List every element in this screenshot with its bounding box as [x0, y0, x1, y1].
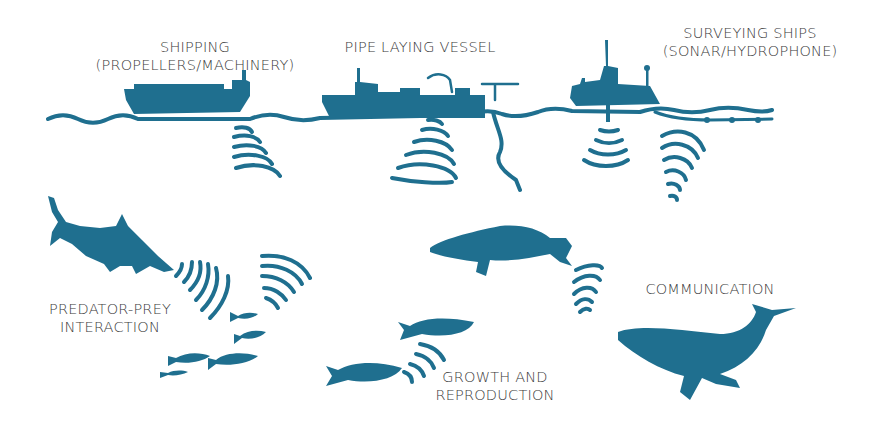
sound-waves-shark-icon	[176, 262, 228, 318]
underwater-noise-diagram: SHIPPING (PROPELLERS/MACHINERY) PIPE LAY…	[0, 0, 884, 443]
sound-waves-sonar-icon	[584, 130, 628, 166]
label-line: INTERACTION	[40, 318, 180, 336]
label-line: (PROPELLERS/MACHINERY)	[80, 56, 310, 74]
label-line: SHIPPING	[80, 38, 310, 56]
label-growth-reproduction: GROWTH AND REPRODUCTION	[425, 368, 565, 404]
hydrophone-node-icon	[729, 117, 735, 123]
label-line: (SONAR/HYDROPHONE)	[640, 42, 860, 60]
label-line: PREDATOR-PREY	[40, 300, 180, 318]
humpback-whale-icon	[618, 304, 796, 400]
label-line: PIPE LAYING VESSEL	[330, 38, 510, 56]
label-line: REPRODUCTION	[425, 386, 565, 404]
label-line: SURVEYING SHIPS	[640, 24, 860, 42]
humpback-whale-icon	[430, 226, 572, 277]
sound-waves-hydrophone-icon	[662, 132, 704, 200]
label-shipping: SHIPPING (PROPELLERS/MACHINERY)	[80, 38, 310, 74]
sonar-transducer-icon	[606, 104, 610, 122]
towed-hydrophone-array	[655, 112, 772, 120]
label-line: GROWTH AND	[425, 368, 565, 386]
sound-waves-whale-icon	[574, 265, 602, 312]
sound-waves-prey-icon	[262, 256, 310, 308]
label-surveying-ships: SURVEYING SHIPS (SONAR/HYDROPHONE)	[640, 24, 860, 60]
hydrophone-node-icon	[755, 117, 761, 123]
label-communication: COMMUNICATION	[630, 280, 790, 298]
shark-icon	[48, 196, 174, 274]
label-line: COMMUNICATION	[630, 280, 790, 298]
sound-waves-pipe-laying-icon	[392, 120, 456, 183]
sound-waves-shipping-icon	[234, 127, 280, 176]
label-pipe-laying-vessel: PIPE LAYING VESSEL	[330, 38, 510, 56]
cargo-ship-icon	[124, 70, 250, 114]
hydrophone-node-icon	[704, 117, 710, 123]
label-predator-prey: PREDATOR-PREY INTERACTION	[40, 300, 180, 336]
